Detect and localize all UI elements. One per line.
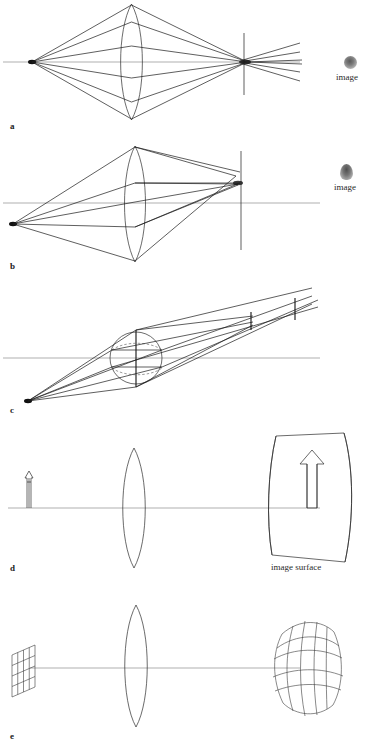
panel-b-incident-rays [13,147,135,261]
panel-b-image-blur-patch [340,164,353,180]
panel-b-coma [3,146,320,262]
panel-b-refracted-rays [135,147,240,261]
panel-c-sagittal-ellipse [112,343,162,350]
panel-d-image-arrow [300,450,324,508]
panel-e-object-grid [12,645,35,697]
panel-label-e: e [10,731,14,741]
panel-e-image-grid [273,621,343,716]
panel-b-image-label: image [334,182,356,192]
panel-a-image-label: image [336,72,358,82]
panel-d-field-curvature [8,433,352,568]
panel-d-image-surface-right-edge [344,433,352,562]
panel-label-b: b [10,261,15,271]
panel-label-a: a [10,121,15,131]
panel-label-c: c [10,405,14,415]
panel-d-image-surface-label: image surface [271,562,321,572]
panel-a-image-blur-patch [344,56,357,69]
panel-b-lens [125,146,146,262]
panel-b-aperture-chords [135,147,240,227]
panel-a-blur-spot [239,59,251,64]
panel-b-blur-spot [233,181,243,185]
panel-e-lens [125,605,148,727]
panel-c-astigmatism [3,288,320,403]
panel-d-image-surface-left-edge [269,436,276,555]
panel-a-spherical-aberration [3,4,302,120]
panel-e-distortion [12,605,343,727]
panel-d-object-arrow [25,471,33,508]
panel-label-d: d [10,563,15,573]
optics-figure-canvas [0,0,389,744]
panel-c-incident-rays [28,330,162,401]
